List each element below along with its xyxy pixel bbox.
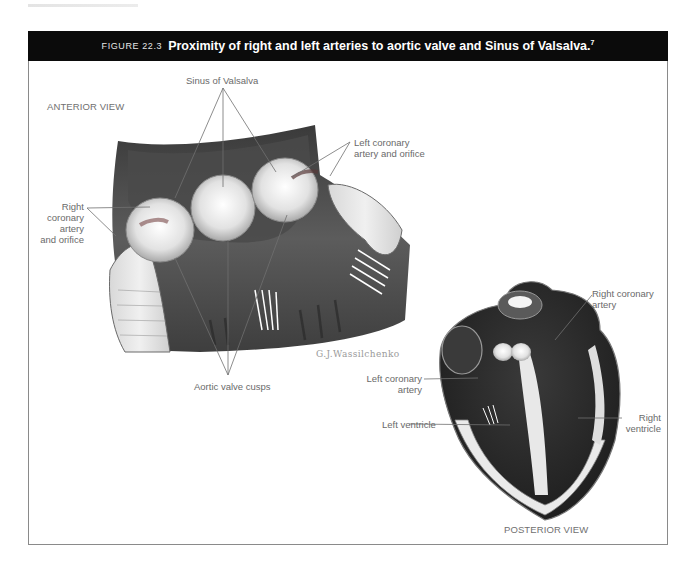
- posterior-view-label: POSTERIOR VIEW: [504, 524, 588, 535]
- label-line: artery: [592, 299, 654, 310]
- left-coronary-artery-label: Left coronary artery and orifice: [354, 137, 425, 159]
- label-line: artery and orifice: [354, 148, 425, 159]
- label-line: Left coronary: [360, 373, 422, 384]
- label-line: artery: [40, 223, 84, 234]
- anterior-aortic-root-illustration: [110, 125, 410, 352]
- label-line: artery: [360, 384, 422, 395]
- aortic-valve-cusps-label: Aortic valve cusps: [194, 381, 271, 392]
- sinus-of-valsalva-label: Sinus of Valsalva: [186, 75, 258, 86]
- label-line: coronary: [40, 212, 84, 223]
- label-line: and orifice: [40, 234, 84, 245]
- illustrator-signature: G.J.Wassilchenko: [316, 349, 400, 359]
- left-ventricle-label: Left ventricle: [382, 419, 436, 430]
- right-ventricle-label: Right ventricle: [623, 412, 661, 434]
- posterior-right-coronary-artery-label: Right coronary artery: [592, 288, 654, 310]
- posterior-left-coronary-artery-label: Left coronary artery: [360, 373, 422, 395]
- label-line: Right: [40, 201, 84, 212]
- right-coronary-artery-label: Right coronary artery and orifice: [40, 201, 84, 245]
- label-line: Right coronary: [592, 288, 654, 299]
- anterior-view-label: ANTERIOR VIEW: [47, 101, 124, 112]
- label-line: ventricle: [623, 423, 661, 434]
- label-line: Right: [623, 412, 661, 423]
- anatomy-illustrations: [0, 0, 690, 570]
- posterior-heart-illustration: [440, 282, 620, 520]
- label-line: Left coronary: [354, 137, 425, 148]
